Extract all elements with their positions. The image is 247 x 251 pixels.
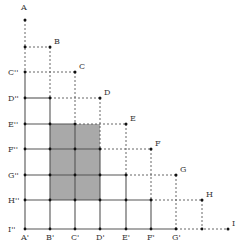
y-label: E'' (8, 120, 18, 129)
y-label: C'' (8, 68, 19, 77)
point-F (150, 148, 153, 151)
label-E: E (130, 114, 136, 123)
x-label: A' (20, 233, 29, 242)
label-I: I (232, 219, 235, 228)
label-D: D (104, 88, 110, 97)
y-label: D'' (8, 94, 19, 103)
point-labels: ABCDEFGHIA'B'C'D'E'F'G'C''D''E''F''G''H'… (8, 3, 235, 242)
point-H (201, 199, 204, 202)
label-A: A (20, 3, 27, 12)
x-label: G' (172, 233, 181, 242)
label-C: C (79, 62, 85, 71)
label-H: H (206, 190, 213, 199)
x-label: E' (122, 233, 130, 242)
y-label: G'' (8, 171, 19, 180)
point-B (49, 46, 52, 49)
point-E (125, 123, 128, 126)
label-F: F (155, 139, 161, 148)
x-label: D' (96, 233, 105, 242)
label-B: B (54, 37, 60, 46)
x-label: B' (46, 233, 54, 242)
label-G: G (180, 165, 186, 174)
point-I (227, 228, 230, 231)
x-label: C' (71, 233, 79, 242)
y-label: I'' (8, 225, 16, 234)
staircase-grid-diagram: ABCDEFGHIA'B'C'D'E'F'G'C''D''E''F''G''H'… (0, 0, 247, 251)
solid-grid-lines (25, 72, 176, 229)
y-label: H'' (8, 196, 19, 205)
point-C (74, 71, 77, 74)
point-G (175, 174, 178, 177)
y-label: F'' (8, 145, 18, 154)
point-A (24, 19, 27, 22)
point-D (99, 97, 102, 100)
x-label: F' (147, 233, 155, 242)
